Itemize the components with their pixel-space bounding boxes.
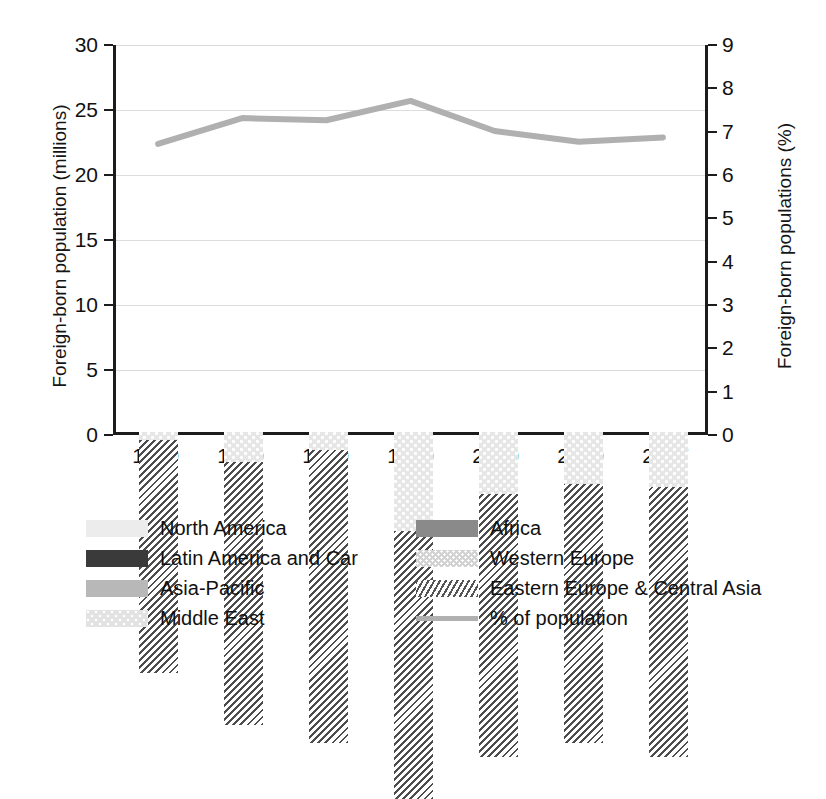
y-axis-left-tick-label: 0	[38, 424, 98, 445]
y-axis-left-tick-label: 20	[38, 164, 98, 185]
bar-segment	[309, 432, 348, 450]
y-axis-right-tick	[708, 131, 717, 133]
y-axis-right-tick-label: 2	[722, 337, 782, 358]
y-axis-right-tick-label: 8	[722, 77, 782, 98]
y-axis-left-tick-label: 30	[38, 34, 98, 55]
y-axis-left-tick-label: 25	[38, 99, 98, 120]
bar-segment	[139, 432, 178, 440]
y-axis-right-tick-label: 9	[722, 34, 782, 55]
bar-segment	[479, 432, 518, 494]
legend-label: Asia-Pacific	[160, 578, 264, 598]
legend-item[interactable]: North America	[86, 518, 416, 538]
legend-swatch-icon	[416, 520, 478, 537]
legend-item[interactable]: Asia-Pacific	[86, 578, 416, 598]
legend-label: Latin America and Car	[160, 548, 358, 568]
legend-item[interactable]: Latin America and Car	[86, 548, 416, 568]
percent-line-series	[116, 45, 705, 432]
bar-segment	[649, 432, 688, 487]
y-axis-right-tick	[708, 261, 717, 263]
legend-swatch-icon	[416, 550, 478, 567]
y-axis-right-tick-label: 1	[722, 381, 782, 402]
y-axis-right-tick-label: 0	[722, 424, 782, 445]
legend-item[interactable]: Western Europe	[416, 548, 786, 568]
legend-item[interactable]: Eastern Europe & Central Asia	[416, 578, 786, 598]
legend-label: North America	[160, 518, 287, 538]
y-axis-left-tick	[104, 44, 113, 46]
y-axis-left-tick	[104, 239, 113, 241]
legend-swatch-icon	[416, 580, 478, 597]
y-axis-right-tick-label: 3	[722, 294, 782, 315]
y-axis-right-tick	[708, 87, 717, 89]
y-axis-left-tick-label: 15	[38, 229, 98, 250]
y-axis-left-tick	[104, 174, 113, 176]
plot-area	[113, 45, 708, 435]
y-axis-right-tick	[708, 44, 717, 46]
legend-item[interactable]: Middle East	[86, 608, 416, 628]
legend-label: % of population	[490, 608, 628, 628]
legend-swatch-icon	[416, 610, 478, 627]
y-axis-right-tick	[708, 391, 717, 393]
y-axis-right-tick	[708, 174, 717, 176]
legend-label: Africa	[490, 518, 541, 538]
bar-segment	[394, 432, 433, 531]
legend-swatch-icon	[86, 580, 148, 597]
legend-item[interactable]: % of population	[416, 608, 786, 628]
y-axis-right-tick-label: 7	[722, 121, 782, 142]
legend-item[interactable]: Africa	[416, 518, 786, 538]
bar-segment	[564, 432, 603, 484]
y-axis-right-tick	[708, 304, 717, 306]
y-axis-right-tick-label: 4	[722, 251, 782, 272]
y-axis-right-tick-label: 6	[722, 164, 782, 185]
y-axis-left-tick-label: 10	[38, 294, 98, 315]
y-axis-left-tick	[104, 369, 113, 371]
legend-label: Eastern Europe & Central Asia	[490, 578, 761, 598]
y-axis-left-tick	[104, 434, 113, 436]
y-axis-right-tick	[708, 217, 717, 219]
legend-label: Middle East	[160, 608, 265, 628]
legend-label: Western Europe	[490, 548, 634, 568]
y-axis-left-tick	[104, 304, 113, 306]
y-axis-right-tick	[708, 434, 717, 436]
chart-legend: North AmericaAfricaLatin America and Car…	[86, 518, 786, 628]
y-axis-left-tick-label: 5	[38, 359, 98, 380]
legend-swatch-icon	[86, 550, 148, 567]
legend-swatch-icon	[86, 520, 148, 537]
y-axis-right-tick-label: 5	[722, 207, 782, 228]
bar-segment	[224, 432, 263, 462]
legend-swatch-icon	[86, 610, 148, 627]
y-axis-right-tick	[708, 347, 717, 349]
y-axis-left-tick	[104, 109, 113, 111]
